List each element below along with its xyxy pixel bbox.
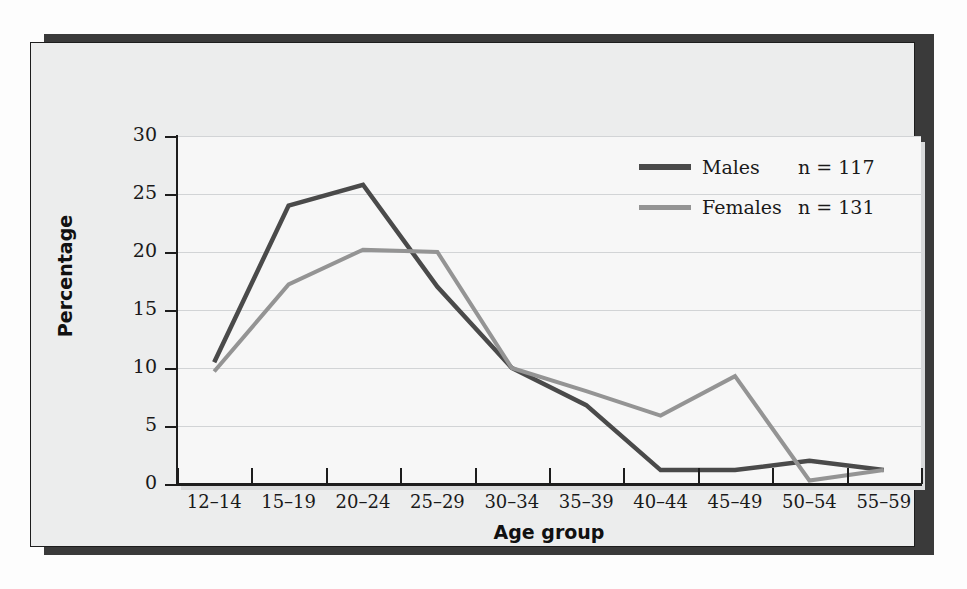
y-tick (165, 368, 177, 370)
x-tick (698, 468, 700, 484)
legend-line-swatch-males (639, 164, 691, 170)
x-tick (623, 468, 625, 484)
legend-line-swatch-females (639, 205, 691, 210)
y-tick-label: 25 (115, 181, 157, 203)
legend-item-females: Females n = 131 (639, 187, 909, 227)
y-tick-label: 10 (115, 355, 157, 377)
x-tick (251, 468, 253, 484)
x-tick (400, 468, 402, 484)
y-tick (165, 194, 177, 196)
y-tick (165, 484, 177, 486)
legend: Males n = 117 Females n = 131 (639, 147, 909, 227)
series-line-males (214, 185, 884, 470)
legend-count-males: n = 117 (798, 156, 875, 178)
legend-item-males: Males n = 117 (639, 147, 909, 187)
y-tick (165, 252, 177, 254)
figure-page: Percentage Age group 051015202530 12–141… (0, 0, 967, 589)
x-tick (549, 468, 551, 484)
x-tick (177, 468, 179, 484)
y-tick (165, 136, 177, 138)
x-tick (921, 468, 923, 484)
y-tick (165, 310, 177, 312)
y-tick-label: 15 (115, 297, 157, 319)
x-axis-title: Age group (177, 521, 921, 543)
series-line-females (214, 250, 884, 481)
legend-label-females: Females (702, 196, 798, 218)
x-tick (847, 468, 849, 484)
y-tick-label: 5 (115, 413, 157, 435)
legend-label-males: Males (702, 156, 798, 178)
x-tick (475, 468, 477, 484)
y-tick-label: 30 (115, 123, 157, 145)
y-axis-title: Percentage (54, 166, 76, 386)
x-tick (772, 468, 774, 484)
y-tick-label: 0 (115, 471, 157, 493)
y-tick (165, 426, 177, 428)
legend-count-females: n = 131 (798, 196, 875, 218)
x-tick (326, 468, 328, 484)
x-tick-label: 55–59 (839, 491, 929, 512)
y-tick-label: 20 (115, 239, 157, 261)
figure-frame: Percentage Age group 051015202530 12–141… (30, 42, 915, 547)
